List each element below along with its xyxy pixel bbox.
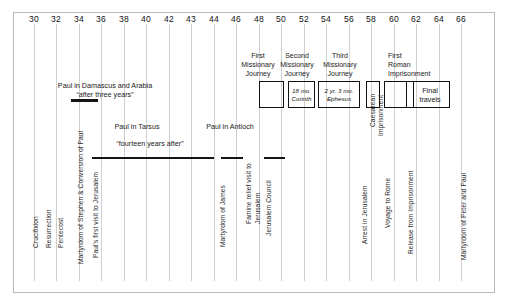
event-label-famine-relief-line1: Famine relief visit to <box>245 163 252 224</box>
axis-tick-19: 66 <box>448 14 474 24</box>
gridline-43 <box>191 24 192 281</box>
timeline-segment-antioch-famine <box>221 157 243 159</box>
gridline-38 <box>124 24 125 281</box>
event-label-pentecost: Pentecost <box>57 218 64 248</box>
timeline-segment-tarsus-antioch <box>92 157 214 159</box>
caption-damascus-line1: Paul in Damascus and Arabia <box>30 81 180 90</box>
event-label-famine-relief-line2: Jerusalem <box>254 193 261 224</box>
gridline-36 <box>101 24 102 281</box>
gridline-44 <box>214 24 215 281</box>
event-label-martyrdom-peter-paul: Martyrdom of Peter and Paul <box>460 173 467 260</box>
event-label-release-imprisonment: Release from Imprisonment <box>407 171 414 255</box>
final-travels-line2: travels <box>410 95 450 104</box>
corinth-line2: Corinth <box>288 95 315 103</box>
event-label-caesarean-line1: Caesarean <box>369 94 376 127</box>
damascus-underline-bar <box>71 99 98 102</box>
ephesus-line1: 2 yr. 3 mo. <box>318 87 360 95</box>
event-label-martyrdom-stephen: Martyrdom of Stephen & Conversion of Pau… <box>77 131 84 264</box>
timeline-diagram: 30 32 34 36 38 40 42 43 44 46 48 50 52 5… <box>0 0 512 305</box>
event-label-jerusalem-council: Jerusalem Council <box>265 180 272 236</box>
timeline-segment-famine-council <box>264 157 285 159</box>
event-label-martyrdom-james: Martyrdom of James <box>219 185 226 247</box>
caption-paul-in-antioch: Paul in Antioch <box>175 122 285 131</box>
caption-damascus-line2: “after three years” <box>30 90 180 99</box>
heading-first-roman-imprisonment: First Roman Imprisonment <box>388 51 458 79</box>
event-label-first-visit-jerusalem: Paul's first visit to Jerusalem <box>92 172 99 258</box>
roman-line2: Roman <box>388 60 458 69</box>
event-label-arrest-jerusalem: Arrest in Jerusalem <box>361 185 368 244</box>
box-text-corinth: 18 mo. Corinth <box>288 87 315 104</box>
third-journey-line2: Missionary <box>310 60 370 69</box>
roman-line1: First <box>388 51 458 60</box>
gridline-58 <box>371 24 372 281</box>
ephesus-line2: Ephesus <box>318 95 360 103</box>
third-journey-line3: Journey <box>310 69 370 78</box>
event-label-caesarean-line2: Imprisonment <box>377 95 384 136</box>
third-journey-line1: Third <box>310 51 370 60</box>
box-text-ephesus: 2 yr. 3 mo. Ephesus <box>318 87 360 104</box>
caption-fourteen-years-after: “fourteen years after” <box>90 139 210 148</box>
roman-line3: Imprisonment <box>388 69 458 78</box>
box-first-missionary-journey <box>259 81 284 108</box>
heading-third-missionary-journey: Third Missionary Journey <box>310 51 370 79</box>
gridline-40 <box>146 24 147 281</box>
event-label-crucifixion: Crucifixion <box>32 216 39 248</box>
gridline-42 <box>169 24 170 281</box>
final-travels-line1: Final <box>410 86 450 95</box>
event-label-voyage-to-rome: Voyage to Rome <box>384 178 391 228</box>
box-text-final-travels: Final travels <box>410 86 450 105</box>
corinth-line1: 18 mo. <box>288 87 315 95</box>
event-label-resurrection: Resurrection <box>45 209 52 248</box>
